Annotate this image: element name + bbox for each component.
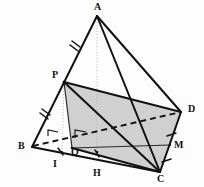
guide-P-I [62,82,64,152]
vertex-label-C: C [157,174,164,184]
geometry-figure: A P B D M C Q I H [0,0,204,187]
tick-A-P [70,41,80,51]
vertex-label-A: A [94,2,101,12]
geometry-canvas [0,0,204,187]
vertex-label-H: H [93,168,101,178]
vertex-label-P: P [52,70,58,80]
dot-M [169,144,171,146]
dot-I [61,151,63,153]
vertex-label-D: D [188,104,195,114]
vertex-label-Q: Q [71,147,79,157]
face-P-D-C-Q [64,82,181,172]
dot-H [96,151,99,154]
vertex-label-B: B [18,141,25,151]
vertex-label-M: M [174,140,184,150]
right-angle-at-I [48,130,58,136]
vertex-label-I: I [53,159,57,169]
dot-P [63,81,66,84]
tick-P-B [40,109,50,119]
shaded-faces [64,82,181,172]
